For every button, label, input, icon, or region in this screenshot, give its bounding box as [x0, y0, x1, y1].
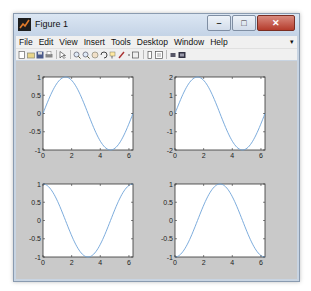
svg-text:6: 6 [127, 259, 131, 266]
svg-text:1: 1 [37, 74, 41, 81]
svg-text:0.5: 0.5 [31, 199, 41, 206]
new-figure-icon[interactable] [18, 51, 26, 59]
close-button[interactable]: ✕ [257, 15, 295, 31]
svg-text:0: 0 [169, 110, 173, 117]
svg-text:4: 4 [98, 152, 102, 159]
svg-text:0: 0 [41, 152, 45, 159]
svg-text:0: 0 [41, 259, 45, 266]
svg-text:2: 2 [202, 152, 206, 159]
data-cursor-icon[interactable] [109, 51, 117, 59]
menu-edit[interactable]: Edit [36, 36, 57, 48]
svg-text:-1: -1 [167, 128, 173, 135]
menu-overflow-icon[interactable]: ▾ [290, 36, 294, 48]
svg-text:2: 2 [70, 259, 74, 266]
edit-plot-icon[interactable] [59, 51, 67, 59]
menu-file[interactable]: File [16, 36, 36, 48]
svg-text:1: 1 [169, 92, 173, 99]
svg-text:0: 0 [173, 152, 177, 159]
zoom-in-icon[interactable] [73, 51, 81, 59]
toolbar-separator [56, 50, 57, 59]
svg-text:-0.5: -0.5 [161, 235, 173, 242]
svg-text:4: 4 [98, 259, 102, 266]
svg-text:0: 0 [37, 217, 41, 224]
svg-text:-1: -1 [167, 254, 173, 261]
maximize-button[interactable]: □ [232, 15, 256, 31]
maximize-icon: □ [233, 16, 255, 30]
svg-text:0.5: 0.5 [163, 199, 173, 206]
menu-help[interactable]: Help [207, 36, 230, 48]
colorbar-icon[interactable] [146, 51, 154, 59]
svg-text:-2: -2 [167, 147, 173, 154]
svg-text:0: 0 [37, 110, 41, 117]
svg-text:0.5: 0.5 [31, 92, 41, 99]
svg-text:0: 0 [173, 259, 177, 266]
hide-plot-tools-icon[interactable] [169, 51, 177, 59]
svg-text:1: 1 [37, 181, 41, 188]
open-file-icon[interactable] [27, 51, 35, 59]
menu-desktop[interactable]: Desktop [134, 36, 171, 48]
link-plot-icon[interactable] [132, 51, 140, 59]
svg-text:2: 2 [169, 74, 173, 81]
title-bar[interactable]: Figure 1 – □ ✕ [14, 14, 299, 36]
figure-window: Figure 1 – □ ✕ FileEditViewInsertToolsDe… [13, 13, 300, 282]
matlab-logo-icon [18, 18, 31, 31]
svg-text:0: 0 [169, 217, 173, 224]
menu-tools[interactable]: Tools [108, 36, 134, 48]
svg-text:2: 2 [202, 259, 206, 266]
menu-window[interactable]: Window [171, 36, 207, 48]
brush-dropdown-icon[interactable] [127, 51, 131, 59]
window-title: Figure 1 [35, 19, 68, 29]
svg-text:-0.5: -0.5 [29, 128, 41, 135]
show-plot-tools-icon[interactable] [178, 51, 186, 59]
axes-2[interactable]: 0246-2-1012 [175, 77, 285, 161]
figure-toolbar [16, 48, 297, 60]
axes-1[interactable]: 0246-1-0.500.51 [43, 77, 153, 161]
svg-text:-0.5: -0.5 [29, 235, 41, 242]
svg-text:-1: -1 [35, 254, 41, 261]
svg-text:6: 6 [259, 152, 263, 159]
close-icon: ✕ [258, 16, 294, 30]
axes-3[interactable]: 0246-1-0.500.51 [43, 184, 153, 268]
svg-text:1: 1 [169, 181, 173, 188]
toolbar-separator [143, 50, 144, 59]
toolbar-separator [166, 50, 167, 59]
toolbar-separator [70, 50, 71, 59]
pan-icon[interactable] [91, 51, 99, 59]
minimize-button[interactable]: – [207, 15, 231, 31]
menu-bar: FileEditViewInsertToolsDesktopWindowHelp… [16, 36, 297, 48]
svg-text:6: 6 [259, 259, 263, 266]
menu-view[interactable]: View [56, 36, 80, 48]
svg-text:4: 4 [230, 259, 234, 266]
axes-4[interactable]: 0246-1-0.500.51 [175, 184, 285, 268]
brush-icon[interactable] [118, 51, 126, 59]
rotate-3d-icon[interactable] [100, 51, 108, 59]
svg-text:-1: -1 [35, 147, 41, 154]
svg-text:4: 4 [230, 152, 234, 159]
print-icon[interactable] [45, 51, 53, 59]
minimize-icon: – [208, 16, 230, 30]
legend-icon[interactable] [155, 51, 163, 59]
save-icon[interactable] [36, 51, 44, 59]
menu-insert[interactable]: Insert [81, 36, 108, 48]
figure-canvas[interactable]: 0246-1-0.500.51 0246-2-1012 0246-1-0.500… [16, 61, 297, 279]
svg-text:2: 2 [70, 152, 74, 159]
zoom-out-icon[interactable] [82, 51, 90, 59]
svg-text:6: 6 [127, 152, 131, 159]
